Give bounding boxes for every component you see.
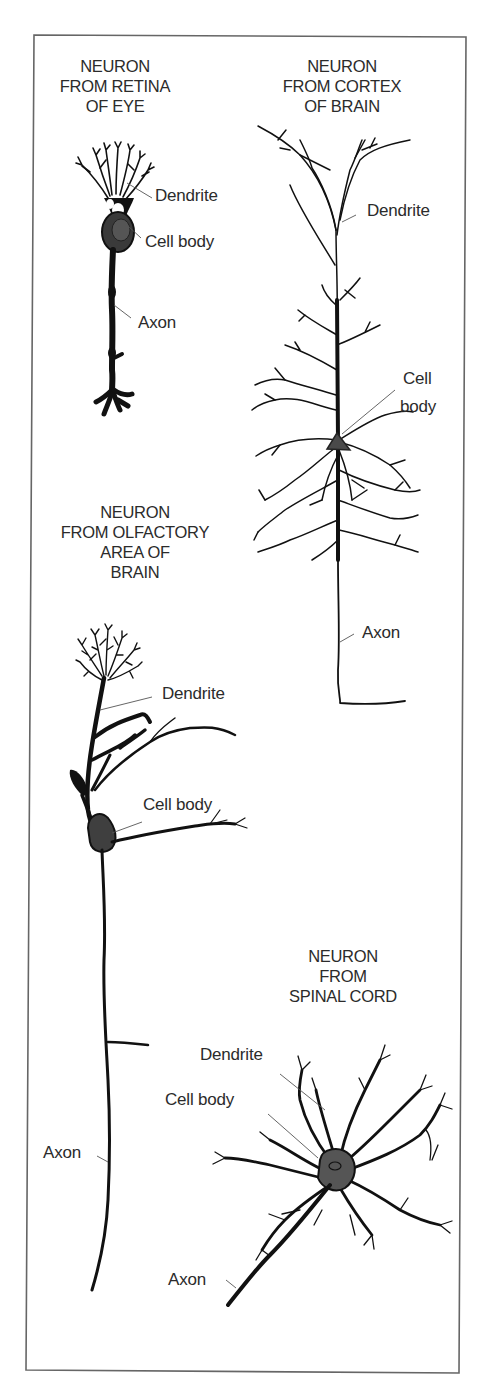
cortex-cell-body-label-line2: body — [400, 397, 436, 417]
cortex-neuron-title: NEURON FROM CORTEX OF BRAIN — [262, 56, 422, 116]
retina-neuron-drawing — [76, 142, 154, 414]
title-line: BRAIN — [35, 562, 235, 582]
title-line: FROM — [268, 966, 418, 986]
title-line: NEURON — [40, 56, 190, 76]
spinal-dendrite-label: Dendrite — [200, 1045, 263, 1065]
spinal-neuron-drawing — [213, 1045, 452, 1305]
olfactory-axon-label: Axon — [43, 1143, 81, 1163]
retina-axon-label: Axon — [138, 313, 176, 333]
figure-frame — [26, 35, 466, 1373]
title-line: NEURON — [35, 502, 235, 522]
spinal-cell-body-label: Cell body — [165, 1090, 234, 1110]
olfactory-neuron-drawing — [70, 624, 247, 1290]
title-line: NEURON — [268, 946, 418, 966]
retina-neuron-title: NEURON FROM RETINA OF EYE — [40, 56, 190, 116]
title-line: FROM RETINA — [40, 76, 190, 96]
title-line: OF EYE — [40, 96, 190, 116]
spinal-axon-label: Axon — [168, 1270, 206, 1290]
spinal-neuron-title: NEURON FROM SPINAL CORD — [268, 946, 418, 1006]
title-line: FROM OLFACTORY — [35, 522, 235, 542]
title-line: SPINAL CORD — [268, 986, 418, 1006]
cortex-axon-label: Axon — [362, 623, 400, 643]
retina-dendrite-label: Dendrite — [155, 186, 218, 206]
olfactory-dendrite-label: Dendrite — [162, 684, 225, 704]
olfactory-neuron-title: NEURON FROM OLFACTORY AREA OF BRAIN — [35, 502, 235, 582]
olfactory-cell-body-label: Cell body — [143, 795, 212, 815]
cortex-dendrite-label: Dendrite — [367, 201, 430, 221]
title-line: FROM CORTEX — [262, 76, 422, 96]
retina-cell-body-label: Cell body — [145, 232, 214, 252]
title-line: OF BRAIN — [262, 96, 422, 116]
neuron-types-figure: NEURON FROM RETINA OF EYE NEURON FROM CO… — [0, 0, 480, 1395]
title-line: AREA OF — [35, 542, 235, 562]
title-line: NEURON — [262, 56, 422, 76]
cortex-cell-body-label-line1: Cell — [403, 369, 432, 389]
